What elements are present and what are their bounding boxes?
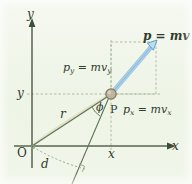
momentum-x-expression: mv	[150, 103, 167, 116]
momentum-line-extension	[72, 95, 110, 184]
momentum-y-expression: mv	[91, 61, 108, 74]
y-tick-label: y	[17, 87, 24, 99]
momentum-diagram-figure: y x O y x P r ϕ d py = mvy px = mvx p = …	[0, 0, 192, 184]
point-p-label: P	[110, 104, 117, 115]
momentum-equals: =	[156, 29, 166, 43]
momentum-expression: mv	[170, 29, 190, 43]
momentum-symbol: p	[143, 29, 151, 43]
momentum-x-equals: =	[138, 103, 147, 116]
particle-marker	[106, 89, 116, 99]
radius-label: r	[60, 108, 66, 120]
momentum-y-equals: =	[78, 61, 87, 74]
momentum-x-expression-sub: x	[167, 108, 171, 117]
moment-arm-label: d	[41, 158, 49, 170]
momentum-vector-arrow	[111, 40, 157, 94]
x-tick-label: x	[108, 148, 115, 160]
momentum-x-symbol: p	[123, 103, 130, 116]
momentum-vector-label: p = mv	[143, 30, 190, 42]
momentum-y-label: py = mvy	[63, 62, 111, 75]
angle-phi-label: ϕ	[96, 102, 104, 113]
x-axis-label: x	[172, 140, 179, 152]
momentum-y-symbol: p	[63, 61, 70, 74]
momentum-y-symbol-sub: y	[70, 66, 74, 75]
momentum-y-expression-sub: y	[107, 66, 111, 75]
origin-label: O	[17, 147, 27, 159]
y-axis-label: y	[27, 8, 34, 20]
momentum-x-symbol-sub: x	[130, 108, 134, 117]
momentum-x-label: px = mvx	[123, 104, 171, 117]
diagram-canvas	[0, 0, 192, 184]
